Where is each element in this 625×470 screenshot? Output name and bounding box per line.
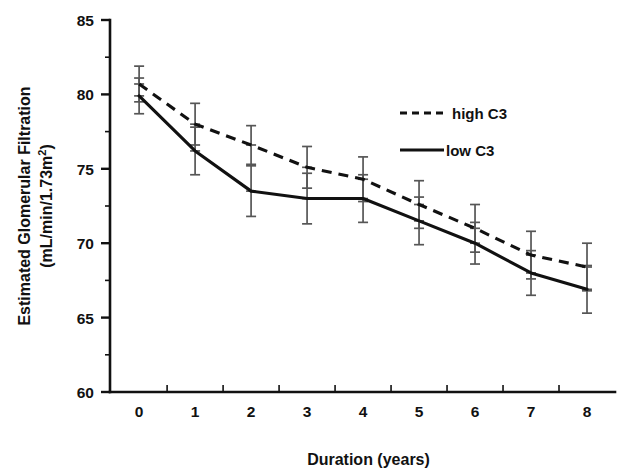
x-tick-label-5: 5 [415,403,424,420]
legend-item-low-c3: low C3 [400,142,494,159]
y-axis-title-line2: (mL/min/1.73m2) [36,144,55,267]
x-tick-label-2: 2 [247,403,256,420]
x-tick-label-6: 6 [471,403,480,420]
y-axis-title: Estimated Glomerular Filtration(mL/min/1… [16,86,55,325]
x-tick-label-8: 8 [583,403,592,420]
legend-label-high-c3: high C3 [452,105,507,122]
y-tick-label-60: 60 [77,384,94,401]
y-tick-label-65: 65 [77,310,95,327]
x-tick-label-7: 7 [527,403,536,420]
y-tick-label-80: 80 [77,86,94,103]
x-axis-title: Duration (years) [307,451,430,468]
legend-item-high-c3: high C3 [400,105,507,122]
x-tick-label-0: 0 [135,403,144,420]
y-tick-label-85: 85 [77,12,95,29]
y-axis-title-line1: Estimated Glomerular Filtration [16,86,33,325]
egfr-duration-line-chart: 858075706560012345678Duration (years)Est… [0,0,625,470]
y-tick-label-75: 75 [77,161,95,178]
x-tick-label-1: 1 [191,403,200,420]
x-tick-label-3: 3 [303,403,312,420]
x-tick-label-4: 4 [359,403,368,420]
legend-label-low-c3: low C3 [446,142,494,159]
y-tick-label-70: 70 [77,235,94,252]
chart-figure: 858075706560012345678Duration (years)Est… [0,0,625,470]
error-bars-low-c3 [134,78,592,313]
